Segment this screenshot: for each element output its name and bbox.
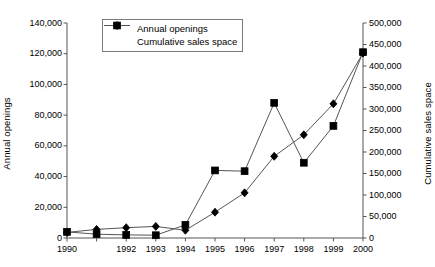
y-axis-left-tick-label: 60,000 [12,141,62,150]
data-point-marker [330,122,337,129]
y-axis-right-tick-label: 150,000 [369,169,421,178]
y-axis-right-tick-label: 500,000 [369,19,421,28]
y-axis-right-tick-label: 350,000 [369,83,421,92]
y-axis-right-tick-label: 50,000 [369,212,421,221]
y-axis-left-tick-label: 40,000 [12,172,62,181]
x-axis-tick-label: 2000 [346,245,380,254]
data-point-marker [271,99,278,106]
data-point-marker [212,167,219,174]
legend-item-label: Annual openings [135,23,208,34]
y-axis-left-tick-label: 0 [12,234,62,243]
x-axis-tick-label: 1990 [50,245,84,254]
diamond-marker-icon [107,36,135,47]
y-axis-right-tick-label: 450,000 [369,40,421,49]
y-axis-right-tick-label: 250,000 [369,126,421,135]
y-axis-right-tick-label: 400,000 [369,62,421,71]
data-point-marker [152,232,159,239]
data-point-marker [123,232,130,239]
chart-figure: Annual openings Cumulative sales space 0… [0,0,435,267]
y-axis-right-tick-label: 200,000 [369,148,421,157]
y-axis-left-tick-label: 140,000 [12,19,62,28]
y-axis-left-tick-label: 100,000 [12,80,62,89]
y-axis-right-tick-label: 300,000 [369,105,421,114]
data-point-marker [241,168,248,175]
y-axis-left-tick-label: 120,000 [12,49,62,58]
axis-lines [67,23,363,238]
y-axis-right-tick-label: 100,000 [369,191,421,200]
y-axis-left-tick-label: 80,000 [12,111,62,120]
data-point-marker [211,208,218,216]
legend: Annual openingsCumulative sales space [102,19,243,52]
y-axis-left-tick-label: 20,000 [12,203,62,212]
y-axis-right-tick-label: 0 [369,234,421,243]
legend-item-label: Cumulative sales space [135,36,237,47]
data-point-marker [152,222,159,230]
legend-item: Cumulative sales space [107,35,237,48]
data-point-marker [123,224,130,232]
data-point-marker [300,159,307,166]
data-series-layer [63,49,366,239]
